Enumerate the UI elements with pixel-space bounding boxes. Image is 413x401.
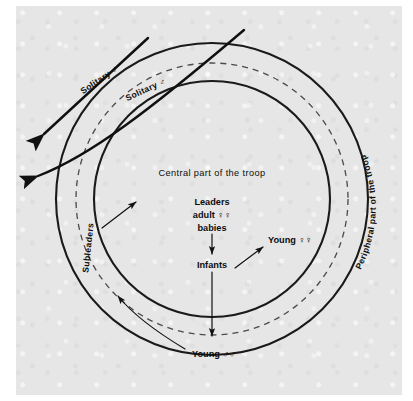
peripheral-part-label: Peripheral part of the troop: [353, 153, 378, 270]
young-females-label: Young ♀♀: [268, 235, 312, 245]
adult-females-label: adult ♀♀: [193, 210, 231, 220]
central-part-label: Central part of the troop: [158, 168, 265, 178]
infants-label: Infants: [197, 260, 227, 270]
figure-container: Central part of the troop Leaders adult …: [0, 0, 413, 401]
subleaders-arrow: [102, 202, 136, 228]
young-males-label: Young ♂♂: [192, 349, 236, 359]
solitary-male-exit-arrow-lower: [38, 30, 244, 176]
infants-to-young-females-arrow: [235, 247, 263, 268]
troop-structure-diagram: Central part of the troop Leaders adult …: [0, 0, 413, 401]
leaders-label: Leaders: [194, 197, 229, 207]
young-males-arrow: [118, 296, 185, 349]
babies-label: babies: [197, 223, 226, 233]
